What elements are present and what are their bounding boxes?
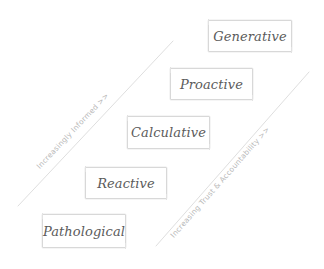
level-label-reactive: Reactive [97,177,155,190]
axis-label-increasingly-informed: Increasingly Informed >> [35,91,111,171]
level-box-proactive[interactable]: Proactive [170,68,253,100]
level-label-pathological: Pathological [43,225,125,238]
level-box-calculative[interactable]: Calculative [127,116,210,149]
level-label-proactive: Proactive [180,78,243,91]
level-label-calculative: Calculative [131,126,206,139]
level-box-pathological[interactable]: Pathological [42,214,126,248]
diagram-canvas: Increasingly Informed >> Increasing Trus… [0,0,324,269]
level-label-generative: Generative [213,30,287,43]
level-box-generative[interactable]: Generative [208,20,292,52]
level-box-reactive[interactable]: Reactive [85,167,167,199]
